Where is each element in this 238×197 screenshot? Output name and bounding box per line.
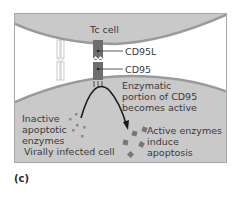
cd95-receptor-icon bbox=[93, 62, 103, 80]
cd95-label: CD95 bbox=[125, 64, 151, 75]
diagram-frame: Tc cell CD95L CD95 Enzymatic portion of … bbox=[14, 13, 227, 163]
cd95l-label: CD95L bbox=[125, 46, 156, 57]
enzymatic-portion-label: Enzymatic portion of CD95 becomes active bbox=[122, 80, 197, 113]
tc-cell-body bbox=[15, 14, 227, 44]
panel-label: (c) bbox=[14, 173, 29, 184]
infected-cell-label: Virally infected cell bbox=[24, 146, 115, 157]
active-enzymes-label: Active enzymes induce apoptosis bbox=[147, 125, 226, 158]
inactive-enzymes-label: Inactive apoptotic enzymes bbox=[22, 113, 67, 146]
tc-cell-label: Tc cell bbox=[90, 24, 119, 35]
unbound-receptor-icon bbox=[57, 40, 64, 80]
